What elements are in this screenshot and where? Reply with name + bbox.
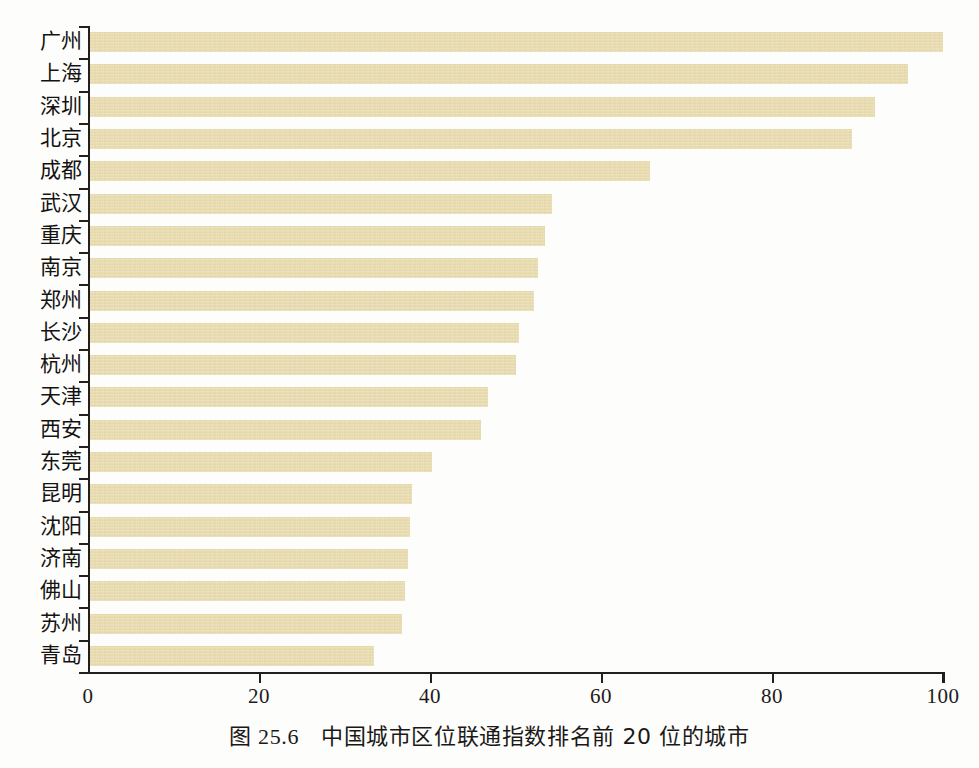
y-axis-label: 武汉 [2,193,82,214]
y-axis-label: 深圳 [2,96,82,117]
y-axis-line [88,26,90,673]
x-axis-line [88,672,944,674]
y-axis-label: 南京 [2,257,82,278]
y-axis-tick [79,478,88,480]
x-axis-tick [772,672,774,683]
y-axis-label: 济南 [2,548,82,569]
y-axis-tick [79,640,88,642]
x-axis-tick [601,672,603,683]
bar [88,517,410,537]
bar [88,420,481,440]
y-axis-category-labels: 广州上海深圳北京成都武汉重庆南京郑州长沙杭州天津西安东莞昆明沈阳济南佛山苏州青岛 [0,26,82,673]
bar [88,97,875,117]
bar [88,32,943,52]
x-axis-tick-label: 100 [903,684,979,709]
y-axis-label: 佛山 [2,580,82,601]
y-axis-tick [79,349,88,351]
y-axis-label: 西安 [2,419,82,440]
bar [88,64,908,84]
y-axis-tick [79,252,88,254]
y-axis-label: 天津 [2,386,82,407]
bar [88,614,402,634]
y-axis-tick [79,188,88,190]
y-axis-tick [79,575,88,577]
y-axis-label: 广州 [2,31,82,52]
bar [88,323,519,343]
bar [88,194,552,214]
caption-text: 中国城市区位联通指数排名前 20 位的城市 [321,724,750,749]
y-axis-label: 北京 [2,128,82,149]
y-axis-label: 重庆 [2,225,82,246]
y-axis-tick [79,317,88,319]
x-axis-tick [943,672,945,683]
bar [88,161,650,181]
y-axis-label: 东莞 [2,451,82,472]
y-axis-tick [79,511,88,513]
figure-caption: 图 25.6中国城市区位联通指数排名前 20 位的城市 [0,718,979,750]
bar [88,387,488,407]
y-axis-tick [79,220,88,222]
y-axis-label: 青岛 [2,645,82,666]
y-axis-tick [79,123,88,125]
y-axis-label: 昆明 [2,483,82,504]
y-axis-label: 沈阳 [2,516,82,537]
y-axis-tick [79,446,88,448]
bar [88,484,412,504]
x-axis-tick-label: 20 [219,684,299,709]
bar [88,129,852,149]
y-axis-tick [79,284,88,286]
x-axis-tick-label: 0 [48,684,128,709]
bar [88,452,432,472]
plot-area [88,26,943,672]
y-axis-label: 上海 [2,63,82,84]
y-axis-tick [79,607,88,609]
y-axis-label: 长沙 [2,322,82,343]
y-axis-label: 成都 [2,160,82,181]
y-axis-tick [79,672,88,674]
x-axis-tick-label: 40 [390,684,470,709]
y-axis-label: 杭州 [2,354,82,375]
y-axis-tick [79,26,88,28]
x-axis-tick [259,672,261,683]
x-axis-tick-label: 60 [561,684,641,709]
y-axis-tick [79,155,88,157]
y-axis-tick [79,91,88,93]
y-axis-label: 苏州 [2,613,82,634]
x-axis-tick-label: 80 [732,684,812,709]
y-axis-label: 郑州 [2,290,82,311]
bar [88,646,374,666]
bar [88,549,408,569]
bar [88,258,538,278]
y-axis-tick [79,414,88,416]
bar [88,226,545,246]
x-axis-tick [430,672,432,683]
y-axis-tick [79,381,88,383]
y-axis-tick [79,58,88,60]
bar [88,581,405,601]
bar [88,291,534,311]
y-axis-tick [79,543,88,545]
figure-bar-chart: 广州上海深圳北京成都武汉重庆南京郑州长沙杭州天津西安东莞昆明沈阳济南佛山苏州青岛… [0,0,979,768]
caption-figure-number: 图 25.6 [229,724,299,749]
bar [88,355,516,375]
